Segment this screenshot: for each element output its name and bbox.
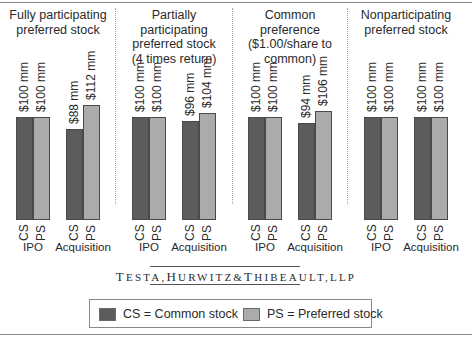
bar-ps-acquisition <box>83 105 100 220</box>
firm-logo: TESTA,HURWITZ&THIBEAULT,LLP <box>0 269 472 285</box>
panel-title-line: preferred stock <box>118 37 230 52</box>
series-axis-label: CS <box>415 224 429 241</box>
logo-rule-top <box>150 266 300 267</box>
bar-value-label: $96 mm <box>183 73 197 116</box>
bar-value-label: $100 mm <box>415 62 429 112</box>
group-label: Acquisition <box>53 241 113 253</box>
panel-divider <box>115 8 116 204</box>
bottom-rule <box>0 334 472 335</box>
series-axis-label: CS <box>299 224 313 241</box>
panel-title-line: Partially participating <box>118 8 230 37</box>
bar-cs-acquisition <box>414 117 431 220</box>
top-rule <box>0 2 472 3</box>
bar-value-label: $100 mm <box>249 62 263 112</box>
bar-value-label: $100 mm <box>34 62 48 112</box>
legend-swatch-cs <box>99 308 116 321</box>
bar-value-label: $100 mm <box>432 62 446 112</box>
series-axis-label: PS <box>150 225 164 241</box>
panel-title: Nonparticipatingpreferred stock <box>350 8 462 37</box>
bar-ps-ipo <box>33 117 50 220</box>
series-axis-label: PS <box>266 225 280 241</box>
bar-value-label: $100 mm <box>266 62 280 112</box>
bar-ps-ipo <box>149 117 166 220</box>
panel-title-line: Fully participating <box>2 8 114 23</box>
legend-swatch-ps <box>243 308 260 321</box>
bar-ps-ipo <box>381 117 398 220</box>
panel-title: Fully participatingpreferred stock <box>2 8 114 37</box>
bar-value-label: $100 mm <box>365 62 379 112</box>
bar-value-label: $112 mm <box>84 51 98 100</box>
series-axis-label: PS <box>34 225 48 241</box>
group-label: Acquisition <box>169 241 229 253</box>
bar-ps-ipo <box>265 117 282 220</box>
series-axis-label: PS <box>382 225 396 241</box>
legend-label-ps: PS = Preferred stock <box>267 307 383 321</box>
bar-cs-ipo <box>132 117 149 220</box>
panel-title-line: ($1.00/share to <box>234 37 346 52</box>
series-axis-label: CS <box>133 224 147 241</box>
bar-value-label: $88 mm <box>67 81 81 124</box>
bar-cs-ipo <box>248 117 265 220</box>
series-axis-label: PS <box>432 225 446 241</box>
group-label: Acquisition <box>401 241 461 253</box>
bar-value-label: $106 mm <box>316 56 330 106</box>
panel-title-line: preferred stock <box>350 23 462 38</box>
bar-value-label: $104 mm <box>200 58 214 108</box>
panel-title-line: preferred stock <box>2 23 114 38</box>
bar-value-label: $100 mm <box>150 62 164 112</box>
bar-value-label: $100 mm <box>382 62 396 112</box>
bar-cs-ipo <box>16 117 33 220</box>
panel-title-line: Common preference <box>234 8 346 37</box>
series-axis-label: CS <box>249 224 263 241</box>
series-axis-label: PS <box>200 225 214 241</box>
bar-ps-acquisition <box>315 111 332 220</box>
legend: CS = Common stock PS = Preferred stock <box>89 299 372 328</box>
legend-label-cs: CS = Common stock <box>123 307 238 321</box>
bar-ps-acquisition <box>431 117 448 220</box>
series-axis-label: CS <box>365 224 379 241</box>
group-label: Acquisition <box>285 241 345 253</box>
bar-cs-acquisition <box>298 123 315 220</box>
series-axis-label: CS <box>183 224 197 241</box>
series-axis-label: PS <box>316 225 330 241</box>
bar-cs-acquisition <box>66 129 83 220</box>
series-axis-label: CS <box>67 224 81 241</box>
series-axis-label: CS <box>17 224 31 241</box>
panel-title-line: Nonparticipating <box>350 8 462 23</box>
bar-value-label: $94 mm <box>299 75 313 118</box>
series-axis-label: PS <box>84 225 98 241</box>
bar-cs-ipo <box>364 117 381 220</box>
bar-ps-acquisition <box>199 113 216 220</box>
bar-value-label: $100 mm <box>133 62 147 112</box>
logo-rule-bottom <box>150 284 300 285</box>
bar-value-label: $100 mm <box>17 62 31 112</box>
panel-divider <box>232 8 233 204</box>
bar-cs-acquisition <box>182 121 199 220</box>
panel-divider <box>347 8 348 204</box>
